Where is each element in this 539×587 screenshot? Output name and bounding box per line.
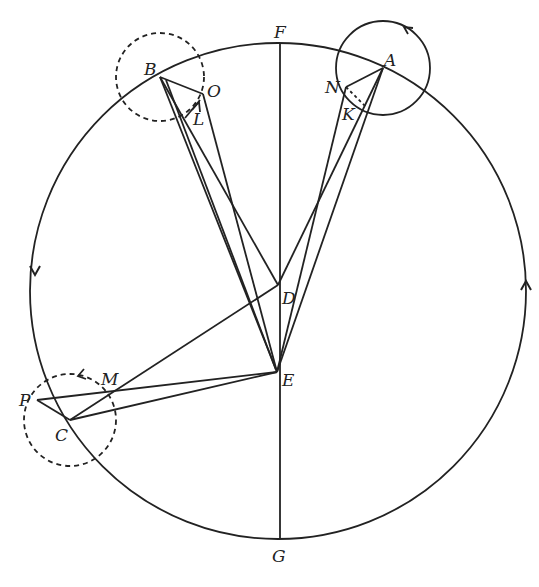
label-D: D [281, 288, 296, 308]
line-AE [277, 68, 383, 372]
line-CD [70, 285, 278, 420]
label-M: M [100, 369, 119, 389]
line-BD [160, 77, 278, 285]
label-F: F [273, 22, 287, 42]
line-AD [278, 68, 383, 285]
label-K: K [341, 104, 356, 124]
label-A: A [382, 50, 396, 70]
line-PE [37, 372, 277, 400]
label-E: E [281, 370, 295, 390]
label-L: L [192, 109, 204, 129]
line-B-E-inner [166, 80, 276, 370]
arrow-epicycle-C-icon [78, 369, 86, 379]
line-PC [37, 400, 70, 420]
label-P: P [18, 390, 31, 410]
label-G: G [272, 546, 286, 566]
deferent-circle [30, 43, 526, 539]
label-N: N [324, 77, 341, 97]
epicycle-diagram: F A B O L N K D E M P C G [0, 0, 539, 587]
line-NE [277, 87, 346, 372]
label-B: B [143, 59, 157, 79]
label-O: O [207, 81, 221, 101]
label-C: C [55, 425, 68, 445]
line-OE [203, 94, 277, 372]
